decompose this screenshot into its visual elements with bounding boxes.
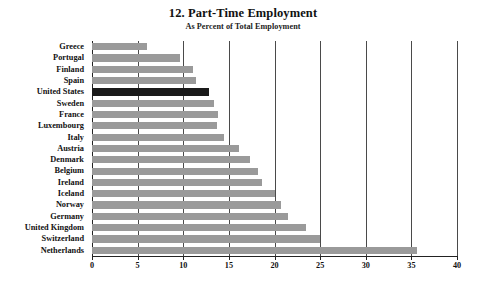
bar-row (92, 154, 457, 165)
plot-wrapper: GreecePortugalFinlandSpainUnited StatesS… (0, 0, 486, 287)
bar (92, 190, 275, 197)
bar-row (92, 75, 457, 86)
bar (92, 54, 180, 61)
bar (92, 201, 281, 208)
bar-row (92, 222, 457, 233)
bar-row (92, 199, 457, 210)
bar (92, 43, 147, 50)
tick-label-40: 40 (445, 261, 469, 270)
category-label: United States (0, 86, 88, 97)
tick-mark-40 (457, 256, 458, 260)
bar-row (92, 120, 457, 131)
category-label: Switzerland (0, 233, 88, 244)
tick-mark-35 (411, 256, 412, 260)
tick-label-25: 25 (308, 261, 332, 270)
bar (92, 168, 258, 175)
category-label: Denmark (0, 154, 88, 165)
category-label: Iceland (0, 188, 88, 199)
bar (92, 66, 193, 73)
bar-row (92, 109, 457, 120)
category-label: Spain (0, 75, 88, 86)
bar-row (92, 64, 457, 75)
tick-mark-15 (229, 256, 230, 260)
category-label: Norway (0, 199, 88, 210)
category-label: Belgium (0, 165, 88, 176)
bar-row (92, 98, 457, 109)
category-label: Luxembourg (0, 120, 88, 131)
bar (92, 145, 239, 152)
tick-label-0: 0 (80, 261, 104, 270)
category-label: Sweden (0, 98, 88, 109)
bar-row (92, 177, 457, 188)
bar (92, 77, 196, 84)
category-label: Ireland (0, 177, 88, 188)
bar (92, 179, 262, 186)
bar-row (92, 143, 457, 154)
category-label: Austria (0, 143, 88, 154)
bar-row (92, 52, 457, 63)
category-label: Germany (0, 211, 88, 222)
bar-row (92, 165, 457, 176)
tick-mark-30 (366, 256, 367, 260)
bar (92, 122, 217, 129)
bar-row (92, 233, 457, 244)
tick-label-15: 15 (217, 261, 241, 270)
tick-label-5: 5 (126, 261, 150, 270)
bar (92, 88, 209, 96)
bar (92, 247, 417, 254)
bar (92, 111, 218, 118)
bar-row (92, 245, 457, 256)
bar (92, 235, 320, 242)
bar (92, 213, 288, 220)
category-label: Greece (0, 41, 88, 52)
bar-row (92, 211, 457, 222)
plot-area (92, 41, 457, 256)
tick-label-10: 10 (171, 261, 195, 270)
category-axis-labels: GreecePortugalFinlandSpainUnited StatesS… (0, 41, 88, 256)
tick-label-35: 35 (399, 261, 423, 270)
tick-label-30: 30 (354, 261, 378, 270)
gridline-40 (457, 41, 458, 256)
bar (92, 134, 224, 141)
category-label: Italy (0, 132, 88, 143)
bar-row (92, 41, 457, 52)
bar (92, 224, 306, 231)
category-label: Finland (0, 64, 88, 75)
category-label: Portugal (0, 52, 88, 63)
tick-mark-5 (138, 256, 139, 260)
tick-mark-25 (320, 256, 321, 260)
bar-row (92, 132, 457, 143)
tick-label-20: 20 (263, 261, 287, 270)
tick-mark-10 (183, 256, 184, 260)
category-label: France (0, 109, 88, 120)
bar (92, 100, 214, 107)
bar-row (92, 188, 457, 199)
category-label: United Kingdom (0, 222, 88, 233)
tick-mark-20 (275, 256, 276, 260)
chart-page: 12. Part-Time Employment As Percent of T… (0, 0, 486, 287)
category-label: Netherlands (0, 245, 88, 256)
bar-row (92, 86, 457, 97)
bar (92, 156, 250, 163)
tick-mark-0 (92, 256, 93, 260)
